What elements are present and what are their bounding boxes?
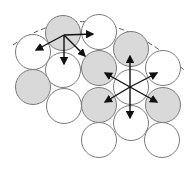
- empty-particle: [114, 106, 149, 141]
- particle-group: [16, 15, 181, 158]
- empty-particle: [46, 53, 81, 88]
- empty-particle: [16, 35, 51, 70]
- empty-particle: [82, 123, 117, 158]
- filled-particle: [82, 88, 117, 123]
- filled-particle: [46, 16, 81, 51]
- packing-diagram: [0, 0, 193, 170]
- empty-particle: [145, 123, 180, 158]
- empty-particle: [47, 89, 82, 124]
- empty-particle: [146, 51, 181, 86]
- empty-particle: [82, 15, 117, 50]
- filled-particle: [82, 51, 117, 86]
- direction-arrow: [64, 34, 93, 35]
- filled-particle: [16, 70, 51, 105]
- filled-particle: [114, 32, 149, 67]
- filled-particle: [146, 88, 181, 123]
